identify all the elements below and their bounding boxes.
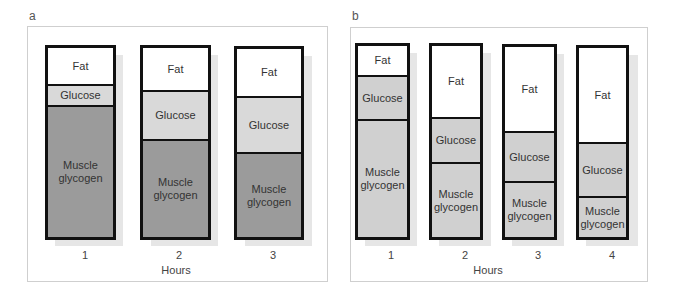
- glucose-segment: Glucose: [505, 131, 554, 181]
- fat-segment: Fat: [237, 49, 301, 96]
- panel-b-bar-4: Fat Glucose Muscle glycogen: [576, 45, 629, 240]
- glucose-segment: Glucose: [432, 117, 480, 162]
- panel-a-bar-1: Fat Glucose Muscle glycogen: [45, 45, 116, 240]
- panel-b-bar-2: Fat Glucose Muscle glycogen: [429, 43, 483, 240]
- x-tick: 2: [164, 249, 194, 261]
- glucose-segment: Glucose: [358, 75, 407, 119]
- x-tick: 1: [376, 249, 406, 261]
- glucose-segment: Glucose: [143, 90, 208, 139]
- panel-a-bar-2: Fat Glucose Muscle glycogen: [140, 45, 211, 240]
- x-tick: 3: [523, 249, 553, 261]
- glucose-segment: Glucose: [579, 142, 626, 196]
- muscle-glycogen-segment: Muscle glycogen: [505, 181, 554, 237]
- glucose-segment: Glucose: [48, 84, 113, 105]
- muscle-glycogen-segment: Muscle glycogen: [237, 152, 301, 237]
- muscle-glycogen-segment: Muscle glycogen: [432, 162, 480, 237]
- muscle-glycogen-segment: Muscle glycogen: [48, 105, 113, 237]
- fat-segment: Fat: [579, 48, 626, 142]
- x-tick: 4: [597, 249, 627, 261]
- x-tick: 3: [258, 249, 288, 261]
- x-axis-label: Hours: [146, 264, 206, 276]
- panel-a-letter: a: [29, 9, 36, 23]
- muscle-glycogen-segment: Muscle glycogen: [358, 119, 407, 237]
- muscle-glycogen-segment: Muscle glycogen: [143, 139, 208, 237]
- x-tick: 2: [450, 249, 480, 261]
- fat-segment: Fat: [432, 46, 480, 117]
- muscle-glycogen-segment: Muscle glycogen: [579, 196, 626, 237]
- fat-segment: Fat: [143, 48, 208, 90]
- panel-b-bar-3: Fat Glucose Muscle glycogen: [502, 44, 557, 240]
- x-axis-label: Hours: [458, 264, 518, 276]
- x-tick: 1: [70, 249, 100, 261]
- fat-segment: Fat: [358, 46, 407, 75]
- fat-segment: Fat: [505, 47, 554, 131]
- panel-b-bar-1: Fat Glucose Muscle glycogen: [355, 43, 410, 240]
- panel-b-letter: b: [352, 9, 359, 23]
- fat-segment: Fat: [48, 48, 113, 84]
- panel-a-bar-3: Fat Glucose Muscle glycogen: [234, 46, 304, 240]
- glucose-segment: Glucose: [237, 96, 301, 152]
